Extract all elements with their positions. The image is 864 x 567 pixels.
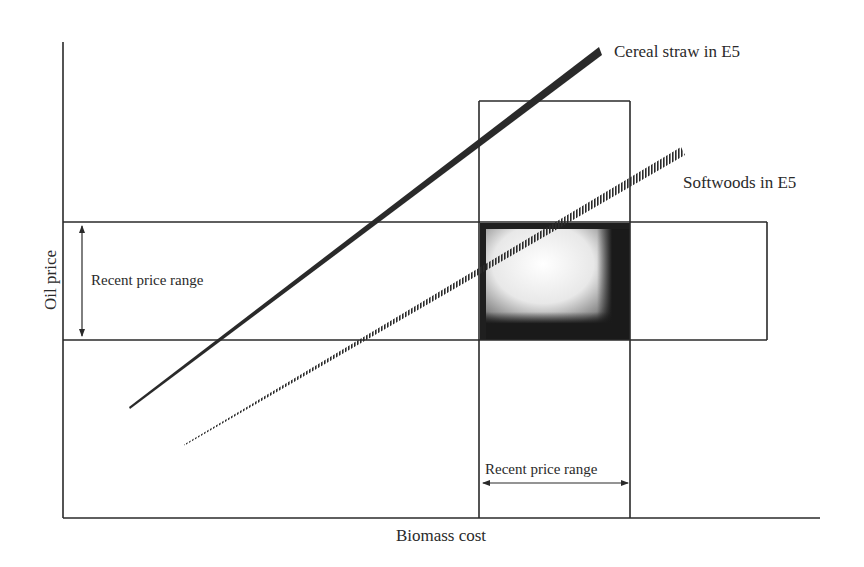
y-axis-label: Oil price	[41, 250, 60, 310]
biomass-cost-range-label: Recent price range	[485, 461, 598, 477]
cereal-straw-label: Cereal straw in E5	[614, 42, 740, 61]
x-axis-label: Biomass cost	[396, 526, 486, 545]
oil-price-range-label: Recent price range	[91, 272, 204, 288]
overlap-region	[480, 223, 630, 340]
diagram-canvas: Cereal straw in E5 Softwoods in E5 Recen…	[0, 0, 864, 567]
softwoods-label: Softwoods in E5	[683, 173, 796, 192]
